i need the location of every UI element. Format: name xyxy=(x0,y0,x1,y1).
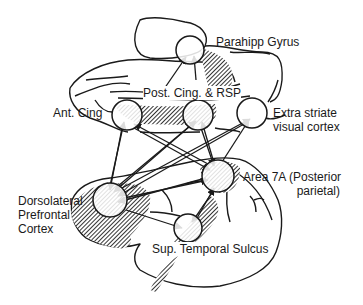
label-extrastriate-line2: visual cortex xyxy=(273,120,340,134)
node-post-cing xyxy=(183,100,213,130)
node-sts xyxy=(174,214,202,242)
node-dlpfc xyxy=(93,183,127,217)
node-ant-cing xyxy=(112,100,142,130)
label-post-cing-rsp: Post. Cing. & RSP xyxy=(143,86,241,100)
label-dlpfc-line3: Cortex xyxy=(18,222,53,236)
node-parahipp xyxy=(176,36,204,64)
label-ant-cing: Ant. Cing xyxy=(53,106,102,120)
label-area7a-line2: parietal) xyxy=(243,184,340,198)
label-parahipp-gyrus: Parahipp Gyrus xyxy=(216,35,299,49)
brain-network-diagram xyxy=(0,0,363,305)
label-area7a-line1: Area 7A (Posterior xyxy=(243,170,341,184)
node-area7a xyxy=(202,160,234,192)
label-dlpfc-line1: Dorsolateral xyxy=(18,194,83,208)
label-extrastriate-line1: Extra striate xyxy=(273,106,337,120)
label-dlpfc-line2: Prefrontal xyxy=(18,208,70,222)
label-sup-temporal-sulcus: Sup. Temporal Sulcus xyxy=(152,242,269,256)
node-extrastriate xyxy=(237,98,267,128)
